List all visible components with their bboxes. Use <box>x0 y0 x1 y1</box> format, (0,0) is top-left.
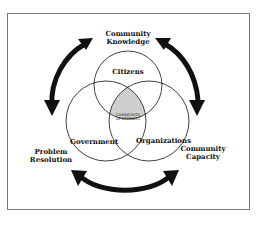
label-line: Knowledge <box>100 38 156 46</box>
label-line: Resolution <box>28 156 74 164</box>
label-community-of-interest: COMMUNITY OF INTEREST <box>110 113 146 121</box>
label-line: Capacity <box>178 153 228 161</box>
arrow-left-icon <box>44 38 93 116</box>
arrow-bottom-icon <box>71 170 179 190</box>
label-community-knowledge: Community Knowledge <box>100 30 156 46</box>
label-citizens: Citizens <box>108 68 148 76</box>
community-of-interest-region <box>109 81 189 161</box>
label-line: OF INTEREST <box>110 117 146 121</box>
label-government: Government <box>70 138 114 146</box>
label-community-capacity: Community Capacity <box>178 145 228 161</box>
arrow-right-icon <box>155 38 205 116</box>
label-organizations: Organizations <box>136 137 186 145</box>
label-problem-resolution: Problem Resolution <box>28 148 74 164</box>
